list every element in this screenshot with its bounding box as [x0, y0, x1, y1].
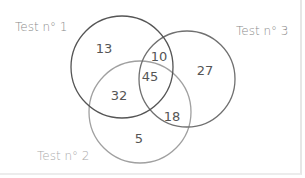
region-1-and-3: 10	[151, 49, 168, 64]
diagram-frame: Test n° 1 Test n° 3 Test n° 2 13 10 27 4…	[0, 0, 302, 175]
region-all: 45	[142, 69, 159, 84]
circle-test-1	[71, 16, 173, 118]
label-test-1: Test n° 1	[15, 20, 68, 34]
region-2-and-3: 18	[164, 109, 181, 124]
region-only-3: 27	[197, 63, 214, 78]
label-test-3: Test n° 3	[236, 24, 289, 38]
region-1-and-2: 32	[111, 88, 128, 103]
region-only-1: 13	[96, 41, 113, 56]
label-test-2: Test n° 2	[37, 149, 90, 163]
region-only-2: 5	[135, 131, 143, 146]
